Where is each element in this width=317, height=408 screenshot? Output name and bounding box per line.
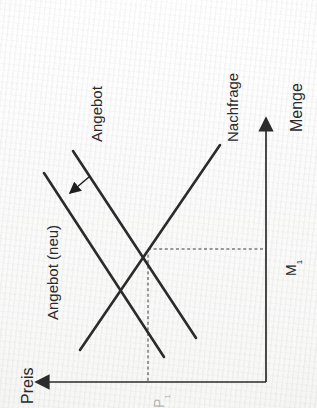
diagram-canvas — [0, 0, 317, 408]
tick-label-m1-text: M — [283, 264, 299, 276]
guide-lines — [148, 249, 266, 382]
tick-label-m1: M1 — [284, 260, 302, 276]
curve-label-nachfrage: Nachfrage — [225, 73, 240, 142]
curve-label-angebot-neu: Angebot (neu) — [45, 225, 60, 320]
shift-arrow-icon — [70, 177, 89, 193]
curve-angebot-neu — [44, 173, 164, 357]
tick-label-p1-sub: 1 — [163, 394, 172, 398]
tick-label-p1-text: P — [151, 399, 167, 408]
axis-label-preis: Preis — [20, 368, 36, 404]
axis-label-menge: Menge — [289, 83, 305, 132]
tick-label-m1-sub: 1 — [295, 260, 304, 264]
curve-nachfrage — [80, 145, 220, 350]
curve-label-angebot: Angebot — [89, 86, 104, 142]
tick-label-p1: P1 — [152, 394, 170, 408]
